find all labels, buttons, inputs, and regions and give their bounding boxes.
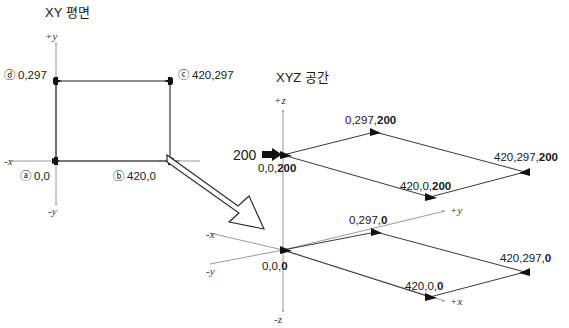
xyz-bottom-p420297-z: 0 [545,252,551,264]
xy-point-b-marker: ⓑ [113,170,125,182]
xyz-bottom-origin-z: 0 [281,260,287,272]
xyz-z-axis-endpoint [282,110,284,112]
xy-point-b-label: 420,0 [127,170,156,182]
xyz-axis-label-pos-x: +x [450,295,462,307]
xy-point-d: ⓓ 0,297 [4,69,47,81]
xyz-top-origin-prefix: 0,0, [258,162,277,174]
transition-arrow [167,155,264,229]
xy-point-d-label: 0,297 [18,69,47,81]
xyz-bottom-p4200-label: 420,0,0 [405,280,443,292]
xyz-bottom-p0297-z: 0 [381,214,387,226]
xy-axis-label-neg-x: -x [4,155,13,167]
diagram-canvas: XY 평면 +y -y +x -x [0,0,569,328]
xy-point-a-label: 0,0 [34,170,50,182]
xy-rectangle [56,81,170,161]
xy-point-c-label: 420,297 [192,69,234,81]
xyz-bottom-origin-prefix: 0,0, [262,260,281,272]
xyz-top-origin-z: 200 [277,162,296,174]
xyz-bottom-origin-label: 0,0,0 [262,260,288,272]
xyz-bottom-p420297-label: 420,297,0 [500,252,551,264]
xyz-pos-x-endpoint [442,300,444,302]
xy-point-c-marker: ⓒ [178,69,190,81]
xyz-axis-label-neg-x: -x [206,228,215,240]
xyz-space-panel: XYZ 공간 +z -z +y +x -x -y [206,70,558,325]
xyz-neg-x-axis [210,233,283,250]
xyz-pos-y-endpoint [442,210,444,212]
xyz-bottom-p4200-prefix: 420,0, [405,280,437,292]
xyz-top-p0297-prefix: 0,297, [345,114,377,126]
xyz-axis-label-pos-z: +z [274,94,286,106]
xyz-bottom-p420297-prefix: 420,297, [500,252,545,264]
xy-axis-label-pos-y: +y [45,30,57,42]
xyz-panel-title: XYZ 공간 [276,70,329,85]
xyz-axis-label-pos-y: +y [450,204,462,216]
xyz-bottom-p0297-prefix: 0,297, [349,214,381,226]
xyz-top-p4200-prefix: 420,0, [400,180,432,192]
xyz-top-p420297-label: 420,297,200 [494,151,558,163]
coordinate-system-figure: XY 평면 +y -y +x -x [0,0,569,328]
xy-y-axis-endpoint [55,43,57,45]
height-callout: 200 [233,147,282,163]
xyz-top-p0297-z: 200 [377,114,396,126]
xyz-bottom-p0297-label: 0,297,0 [349,214,387,226]
xy-point-c: ⓒ 420,297 [178,69,234,81]
xyz-top-p4200-label: 420,0,200 [400,180,451,192]
xy-vertex-markers [52,77,174,165]
xy-point-b: ⓑ 420,0 [113,170,156,182]
xy-axis-label-neg-y: -y [48,205,57,217]
xy-point-a-marker: ⓐ [20,170,32,182]
xyz-top-p4200-z: 200 [432,180,451,192]
xyz-top-p420297-z: 200 [539,151,558,163]
xyz-top-p0297-label: 0,297,200 [345,114,396,126]
xy-panel-title: XY 평면 [45,5,90,20]
xyz-top-p420297-prefix: 420,297, [494,151,539,163]
xyz-axis-label-neg-y: -y [206,265,215,277]
xy-point-d-marker: ⓓ [4,69,16,81]
xy-point-a: ⓐ 0,0 [20,170,50,182]
xyz-axis-label-neg-z: -z [274,313,283,325]
xyz-top-origin-label: 0,0,200 [258,162,296,174]
xyz-negz-axis-endpoint [282,310,284,312]
xyz-bottom-p4200-z: 0 [437,280,443,292]
height-callout-value: 200 [233,147,257,163]
